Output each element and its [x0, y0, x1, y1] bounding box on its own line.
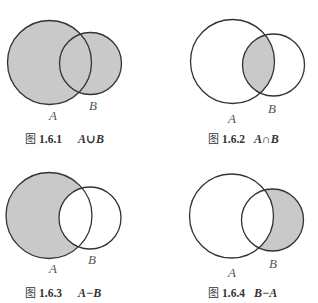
set-a-label: A	[227, 111, 236, 126]
figure-union: A B 图 1.6.1 A∪B	[8, 21, 122, 147]
set-a-label: A	[227, 265, 236, 280]
figure-b-minus-a: A B 图 1.6.4 B−A	[160, 150, 318, 303]
caption-expression: A∩B	[253, 132, 279, 146]
set-b-label: B	[269, 256, 277, 271]
figure-caption: 图 1.6.4 B−A	[208, 286, 277, 300]
caption-expression: A−B	[77, 286, 101, 300]
shaded-region-a-minus-b	[0, 150, 160, 303]
set-b-label: B	[88, 252, 96, 267]
caption-number: 1.6.3	[39, 287, 62, 299]
venn-diagram-figure-sheet: A B 图 1.6.1 A∪B A B 图 1.6.2 A∩B A B 图 1.…	[0, 0, 318, 303]
caption-prefix: 图	[25, 133, 36, 146]
figure-intersection: A B 图 1.6.2 A∩B	[191, 20, 305, 147]
caption-prefix: 图	[208, 287, 219, 300]
caption-expression: B−A	[253, 286, 277, 300]
caption-prefix: 图	[25, 287, 36, 300]
set-b-label: B	[268, 101, 276, 116]
caption-number: 1.6.1	[39, 133, 62, 145]
set-a-label: A	[48, 261, 57, 276]
shaded-region-b-minus-a	[160, 150, 318, 303]
set-a-label: A	[48, 108, 57, 123]
set-b-label: B	[89, 98, 97, 113]
caption-prefix: 图	[208, 133, 219, 146]
caption-expression: A∪B	[77, 132, 104, 146]
caption-number: 1.6.2	[222, 133, 245, 145]
figure-caption: 图 1.6.2 A∩B	[208, 132, 279, 146]
caption-number: 1.6.4	[222, 287, 245, 299]
figure-a-minus-b: A B 图 1.6.3 A−B	[0, 150, 160, 303]
figure-caption: 图 1.6.1 A∪B	[25, 132, 104, 146]
